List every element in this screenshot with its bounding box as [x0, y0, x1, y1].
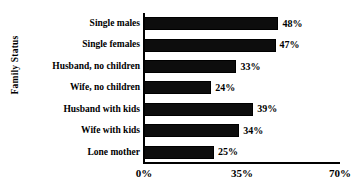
- bar-row: 39%: [144, 99, 340, 120]
- bar-row: 24%: [144, 77, 340, 98]
- bar-row: 25%: [144, 142, 340, 163]
- bar: [144, 39, 276, 52]
- bar: [144, 103, 253, 116]
- bar: [144, 124, 239, 137]
- bar-value-label: 34%: [243, 126, 263, 136]
- x-tick-label: 70%: [329, 168, 351, 179]
- category-label: Wife, no children: [14, 77, 140, 98]
- clipped-header-text: [0, 0, 351, 5]
- category-label: Lone mother: [14, 142, 140, 163]
- bar-value-label: 33%: [240, 62, 260, 72]
- bar-value-label: 47%: [280, 40, 300, 50]
- bar: [144, 146, 214, 159]
- x-tick-label: 0%: [136, 168, 153, 179]
- bar-value-label: 39%: [257, 104, 277, 114]
- category-label: Single females: [14, 34, 140, 55]
- bar-chart-figure: Family Status Single males Single female…: [0, 0, 351, 191]
- bar-value-label: 48%: [282, 19, 302, 29]
- category-label: Wife with kids: [14, 120, 140, 141]
- bar-value-label: 25%: [218, 147, 238, 157]
- category-label-column: Single males Single females Husband, no …: [14, 13, 140, 163]
- x-tick-label: 35%: [231, 168, 253, 179]
- bar-value-label: 24%: [215, 83, 235, 93]
- category-label: Single males: [14, 13, 140, 34]
- plot-area: 48% 47% 33% 24% 39% 34% 25%: [144, 13, 340, 163]
- bar-row: 48%: [144, 13, 340, 34]
- bar: [144, 60, 236, 73]
- category-label: Husband, no children: [14, 56, 140, 77]
- bar-row: 47%: [144, 34, 340, 55]
- bar-row: 34%: [144, 120, 340, 141]
- bar-row: 33%: [144, 56, 340, 77]
- category-label: Husband with kids: [14, 99, 140, 120]
- x-axis-tick-labels: 0% 35% 70%: [144, 168, 340, 184]
- bar: [144, 81, 211, 94]
- bar: [144, 17, 278, 30]
